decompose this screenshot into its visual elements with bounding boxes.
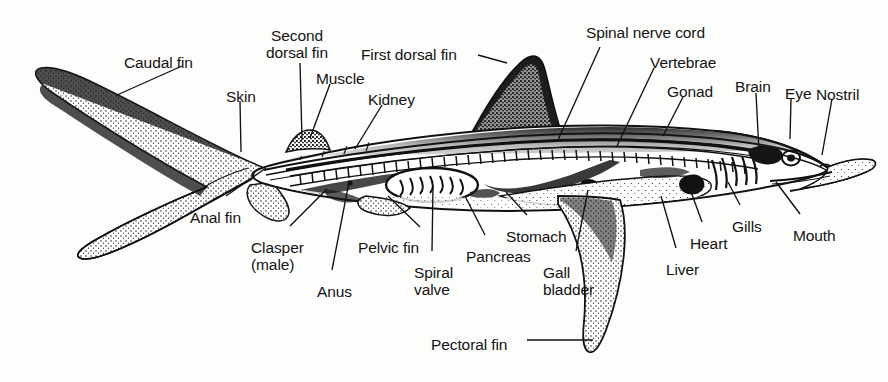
label-stomach: Stomach xyxy=(506,228,566,245)
label-first-dorsal-fin: First dorsal fin xyxy=(361,46,457,63)
label-liver: Liver xyxy=(666,261,699,278)
label-second-dorsal-fin: Second dorsal fin xyxy=(266,27,328,61)
label-nostril: Nostril xyxy=(816,86,859,103)
label-gonad: Gonad xyxy=(667,83,713,100)
label-gall-bladder: Gall bladder xyxy=(543,264,594,298)
leader-mouth xyxy=(776,182,800,214)
leader-nostril xyxy=(822,99,832,155)
label-spiral-valve: Spiral valve xyxy=(414,264,453,298)
label-mouth: Mouth xyxy=(793,227,836,244)
label-anus: Anus xyxy=(317,283,352,300)
leader-skin xyxy=(240,101,241,152)
shark-anatomy-figure: Caudal finSecond dorsal finFirst dorsal … xyxy=(0,0,888,382)
label-pancreas: Pancreas xyxy=(466,248,531,265)
spiral-valve-shape xyxy=(386,168,478,202)
label-anal-fin: Anal fin xyxy=(190,209,241,226)
label-muscle: Muscle xyxy=(316,70,365,87)
label-brain: Brain xyxy=(735,78,771,95)
label-caudal-fin: Caudal fin xyxy=(124,54,193,71)
heart-shape xyxy=(679,175,704,195)
leader-muscle xyxy=(310,84,330,138)
first-dorsal-fin-shape xyxy=(470,56,562,136)
label-pelvic-fin: Pelvic fin xyxy=(358,239,419,256)
label-eye: Eye xyxy=(785,85,811,102)
leader-eye xyxy=(790,99,791,139)
leader-second-dorsal-fin xyxy=(300,63,302,140)
label-pectoral-fin: Pectoral fin xyxy=(431,336,507,353)
leader-liver xyxy=(661,196,676,248)
leader-first-dorsal-fin xyxy=(478,55,507,63)
second-dorsal-fin-shape xyxy=(286,130,330,152)
label-heart: Heart xyxy=(690,235,727,252)
label-clasper-male: Clasper (male) xyxy=(251,239,304,273)
label-skin: Skin xyxy=(226,88,256,105)
label-vertebrae: Vertebrae xyxy=(650,54,716,71)
label-spinal-nerve-cord: Spinal nerve cord xyxy=(586,24,705,41)
label-kidney: Kidney xyxy=(368,91,415,108)
label-gills: Gills xyxy=(732,218,762,235)
